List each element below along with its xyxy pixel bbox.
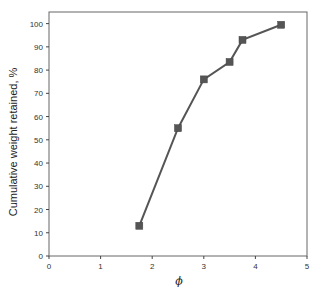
data-point-marker — [278, 21, 285, 28]
x-tick-label: 1 — [98, 262, 103, 271]
data-point-marker — [239, 36, 246, 43]
y-tick-label: 0 — [39, 252, 44, 261]
y-tick-label: 100 — [30, 20, 44, 29]
x-tick-label: 2 — [150, 262, 155, 271]
y-tick-label: 60 — [34, 113, 43, 122]
y-tick-label: 50 — [34, 136, 43, 145]
chart: 0102030405060708090100 012345 Cumulative… — [0, 0, 315, 300]
y-tick-label: 20 — [34, 206, 43, 215]
data-point-marker — [226, 58, 233, 65]
y-tick-label: 10 — [34, 229, 43, 238]
plot-frame — [49, 12, 307, 256]
y-tick-label: 80 — [34, 66, 43, 75]
x-tick-label: 5 — [305, 262, 310, 271]
data-point-marker — [136, 222, 143, 229]
data-line — [139, 25, 281, 226]
x-tick-label: 0 — [47, 262, 52, 271]
y-tick-label: 90 — [34, 43, 43, 52]
y-tick-label: 40 — [34, 159, 43, 168]
y-axis-title: Cumulative weight retained, % — [7, 67, 19, 216]
y-axis: 0102030405060708090100 — [30, 20, 49, 261]
x-axis: 012345 — [47, 256, 310, 271]
x-tick-label: 4 — [253, 262, 258, 271]
y-tick-label: 70 — [34, 89, 43, 98]
x-tick-label: 3 — [202, 262, 207, 271]
data-point-marker — [200, 76, 207, 83]
y-tick-label: 30 — [34, 182, 43, 191]
x-axis-title: ϕ — [175, 275, 183, 288]
data-point-marker — [175, 125, 182, 132]
data-markers — [136, 21, 285, 229]
